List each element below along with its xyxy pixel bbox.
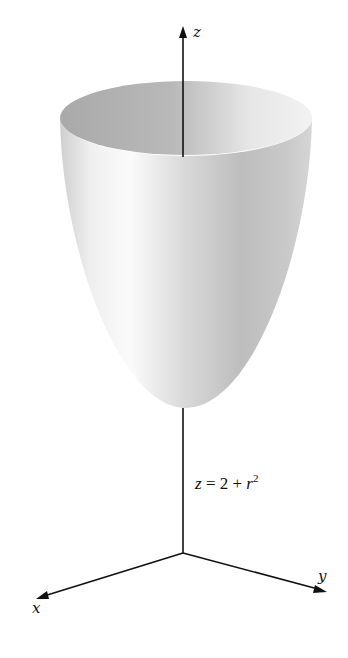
- equation-label: z = 2 + r2: [194, 472, 258, 493]
- y-axis-label: y: [317, 567, 327, 585]
- paraboloid-opening: [60, 81, 312, 155]
- equation-exponent: 2: [253, 472, 259, 484]
- paraboloid-surface: [60, 118, 312, 408]
- y-axis-arrowhead: [313, 585, 327, 593]
- x-axis: [44, 553, 183, 596]
- x-axis-arrowhead: [36, 591, 49, 599]
- x-axis-label: x: [32, 599, 41, 617]
- paraboloid-diagram: z x y z = 2 + r2: [0, 0, 348, 658]
- z-axis-label: z: [192, 23, 201, 41]
- equation-operator: = 2 +: [202, 474, 247, 493]
- y-axis: [183, 553, 318, 589]
- z-axis-arrowhead: [179, 26, 187, 38]
